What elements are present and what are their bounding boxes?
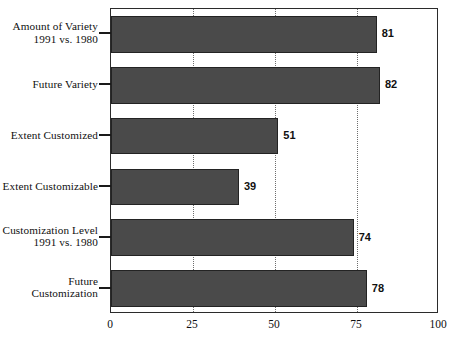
x-tick-label: 25 [186,318,198,330]
bar-value-label: 74 [359,231,371,243]
bar-value-label: 78 [372,282,384,294]
bar-value-label: 39 [244,180,256,192]
bar [111,67,380,104]
bar [111,219,354,256]
category-tick [99,83,111,85]
bar-value-label: 81 [382,27,394,39]
category-label: Extent Customizable [3,180,98,193]
category-tick [99,287,111,289]
bar [111,270,367,307]
gridline [357,9,358,312]
bar-chart: Amount of Variety 1991 vs. 1980Future Va… [0,0,449,342]
category-label: Amount of Variety 1991 vs. 1980 [13,21,98,46]
bar [111,16,377,53]
category-label: Extent Customized [11,129,98,142]
category-tick [99,32,111,34]
x-tick-label: 0 [107,318,113,330]
bar [111,118,278,155]
category-tick [99,134,111,136]
bar [111,169,239,206]
category-tick [99,236,111,238]
x-tick-label: 100 [429,318,446,330]
x-tick-label: 50 [268,318,280,330]
category-label: Future Variety [32,78,98,91]
gridline [275,9,276,312]
category-label: Future Customization [0,275,98,300]
category-tick [99,185,111,187]
category-label: Customization Level 1991 vs. 1980 [3,224,98,249]
plot-area [110,8,438,313]
bar-value-label: 51 [283,129,295,141]
bar-value-label: 82 [385,78,397,90]
x-tick-label: 75 [350,318,362,330]
gridline [193,9,194,312]
